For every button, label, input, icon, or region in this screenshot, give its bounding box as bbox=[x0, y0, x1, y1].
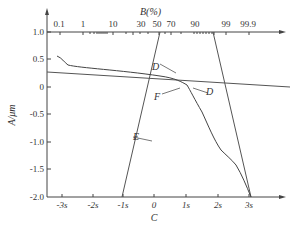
svg-text:30: 30 bbox=[137, 19, 147, 29]
svg-text:1: 1 bbox=[81, 19, 86, 29]
measured-curve bbox=[57, 56, 251, 197]
label-d-right: D bbox=[205, 86, 214, 97]
svg-text:-2.0: -2.0 bbox=[30, 192, 45, 202]
y-axis-title: A/μm bbox=[6, 104, 17, 126]
svg-text:0.5: 0.5 bbox=[33, 54, 45, 64]
svg-text:-1s: -1s bbox=[118, 200, 129, 210]
line-e bbox=[122, 32, 160, 197]
y-tick-labels: 1.0 0.5 0 -0.5 -1.0 -1.5 -2.0 bbox=[30, 27, 45, 202]
plot-lines bbox=[47, 32, 290, 197]
label-f: F bbox=[153, 91, 161, 102]
top-axis-title: B(%) bbox=[140, 6, 162, 18]
svg-text:1s: 1s bbox=[182, 200, 191, 210]
label-d-upper: D bbox=[151, 61, 160, 72]
svg-text:99.9: 99.9 bbox=[240, 19, 256, 29]
svg-text:-1.5: -1.5 bbox=[30, 164, 45, 174]
svg-text:70: 70 bbox=[167, 19, 177, 29]
x-tick-labels: -3s -2s -1s 0 1s 2s 3s bbox=[57, 200, 254, 210]
svg-text:-1.0: -1.0 bbox=[30, 137, 45, 147]
y-axis bbox=[45, 8, 51, 197]
svg-text:-2s: -2s bbox=[88, 200, 99, 210]
svg-text:99: 99 bbox=[222, 19, 232, 29]
svg-text:2s: 2s bbox=[214, 200, 223, 210]
svg-text:10: 10 bbox=[109, 19, 119, 29]
svg-text:50: 50 bbox=[153, 19, 163, 29]
chart: 1.0 0.5 0 -0.5 -1.0 -1.5 -2.0 A/μm -3s -… bbox=[0, 0, 294, 231]
svg-text:90: 90 bbox=[191, 19, 201, 29]
svg-text:0: 0 bbox=[40, 82, 45, 92]
svg-text:0: 0 bbox=[152, 200, 157, 210]
steep-line bbox=[213, 32, 251, 197]
svg-text:-3s: -3s bbox=[57, 200, 68, 210]
x-axis-title: C bbox=[151, 212, 158, 223]
horizontal-line bbox=[47, 72, 290, 87]
top-tick-labels: 0.1 1 10 30 50 70 90 99 99.9 bbox=[53, 19, 256, 29]
svg-text:1.0: 1.0 bbox=[33, 27, 45, 37]
top-axis bbox=[47, 30, 286, 35]
label-e: E bbox=[132, 131, 139, 142]
svg-text:0.1: 0.1 bbox=[53, 19, 64, 29]
svg-text:3s: 3s bbox=[244, 200, 254, 210]
svg-text:-0.5: -0.5 bbox=[30, 109, 45, 119]
